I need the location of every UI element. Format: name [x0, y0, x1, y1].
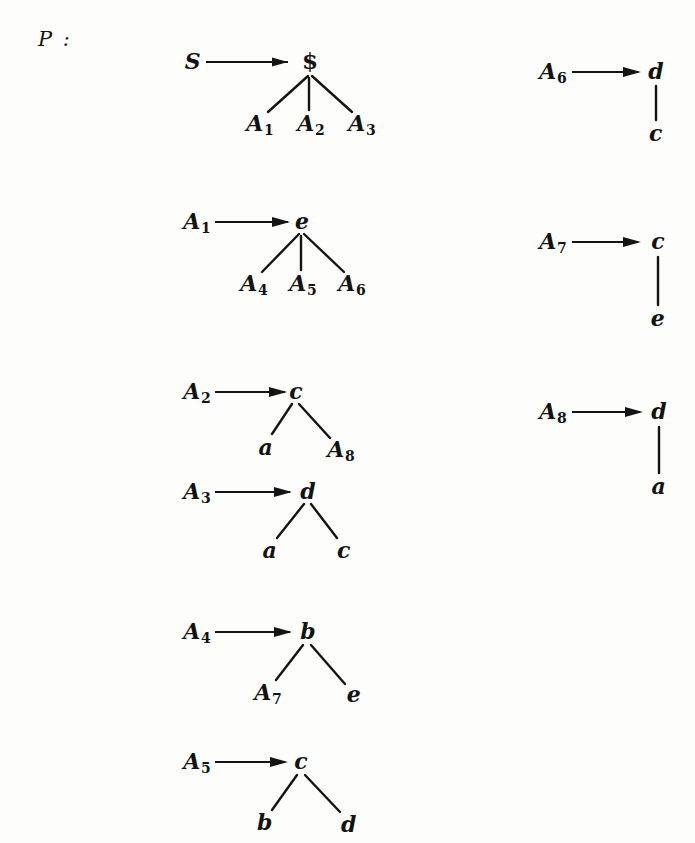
rule-child-node: c — [649, 120, 663, 148]
rule-child-node: A4 — [240, 270, 267, 298]
tree-edge — [304, 234, 344, 272]
rule-root-node: b — [300, 618, 315, 644]
tree-edge — [262, 234, 299, 272]
tree-edge — [305, 775, 340, 812]
lhs-letter: S — [185, 48, 201, 74]
child-letter: a — [652, 473, 666, 499]
arrow-head — [623, 237, 641, 247]
rule-child-node: d — [341, 811, 357, 839]
child-letter: e — [651, 305, 665, 331]
lhs-letter: A — [183, 748, 200, 774]
child-letter: A — [254, 679, 271, 705]
production-set-label: P : — [38, 27, 72, 51]
lhs-subscript: 2 — [201, 390, 211, 406]
rule-child-node: A5 — [289, 270, 316, 298]
child-letter: A — [297, 110, 314, 136]
child-subscript: 1 — [264, 122, 274, 138]
child-subscript: 8 — [345, 448, 355, 464]
rule-child-node: e — [347, 681, 362, 709]
lhs-subscript: 7 — [557, 240, 567, 256]
rule-child-node: A8 — [327, 436, 354, 464]
rule-lhs-symbol: A7 — [539, 228, 566, 256]
rule-child-node: A3 — [348, 110, 375, 138]
child-letter: c — [337, 537, 350, 563]
lhs-subscript: 3 — [201, 490, 211, 506]
child-subscript: 4 — [258, 282, 268, 298]
tree-edge — [312, 76, 352, 112]
lhs-subscript: 1 — [201, 220, 211, 236]
lhs-subscript: 5 — [201, 760, 211, 776]
tree-edge — [299, 404, 330, 438]
lhs-letter: A — [183, 618, 200, 644]
rule-root-node: d — [648, 58, 663, 84]
rule-lhs-symbol: A2 — [183, 378, 210, 406]
rule-lhs-symbol: S — [185, 48, 201, 76]
arrow-head — [272, 58, 288, 67]
lhs-letter: A — [539, 228, 556, 254]
child-letter: A — [240, 270, 257, 296]
rule-child-node: A7 — [254, 679, 281, 707]
arrow-head — [623, 67, 641, 77]
rule-root-node: d — [300, 478, 315, 504]
child-subscript: 3 — [366, 122, 376, 138]
tree-edge — [311, 504, 337, 538]
tree-edge — [311, 645, 345, 684]
rule-child-node: a — [263, 537, 278, 565]
child-letter: a — [259, 434, 273, 460]
rule-lhs-symbol: A8 — [539, 398, 566, 426]
child-letter: e — [347, 681, 361, 707]
lhs-subscript: 4 — [201, 630, 211, 646]
rule-root-node: d — [651, 398, 666, 424]
child-letter: A — [246, 110, 263, 136]
child-letter: a — [263, 537, 277, 563]
rule-child-node: b — [257, 809, 273, 837]
lhs-subscript: 8 — [557, 410, 567, 426]
rule-child-node: a — [652, 473, 667, 501]
rule-root-node: c — [294, 748, 307, 774]
lhs-letter: A — [539, 58, 556, 84]
arrow-head — [269, 387, 287, 397]
arrow-head — [274, 487, 292, 497]
tree-edge — [272, 404, 292, 434]
rule-lhs-symbol: A3 — [183, 478, 210, 506]
arrow-head — [272, 217, 290, 227]
rule-root-node: c — [651, 228, 664, 254]
rule-lhs-symbol: A5 — [183, 748, 210, 776]
rule-child-node: A1 — [246, 110, 273, 138]
rule-child-node: A6 — [338, 270, 365, 298]
arrow-head — [274, 627, 292, 637]
lhs-letter: A — [183, 378, 200, 404]
child-subscript: 2 — [315, 122, 325, 138]
tree-edge — [277, 504, 304, 538]
child-letter: A — [338, 270, 355, 296]
rule-root-node: $ — [302, 47, 318, 74]
rule-lhs-symbol: A1 — [183, 208, 210, 236]
rule-child-node: A2 — [297, 110, 324, 138]
lhs-letter: A — [183, 478, 200, 504]
tree-edge — [268, 76, 308, 112]
rule-child-node: a — [259, 434, 274, 462]
child-subscript: 5 — [307, 282, 317, 298]
rule-lhs-symbol: A6 — [539, 58, 566, 86]
child-letter: A — [289, 270, 306, 296]
lhs-letter: A — [539, 398, 556, 424]
rule-child-node: e — [651, 305, 666, 333]
child-letter: d — [341, 811, 356, 837]
child-letter: A — [327, 436, 344, 462]
child-letter: b — [257, 809, 272, 835]
lhs-letter: A — [183, 208, 200, 234]
rule-lhs-symbol: A4 — [183, 618, 210, 646]
child-letter: A — [348, 110, 365, 136]
arrow-head — [625, 407, 643, 417]
child-letter: c — [649, 120, 662, 146]
arrow-head — [270, 757, 288, 767]
tree-edge — [276, 645, 303, 680]
figure-canvas: P : S $ A1 A2 A3 — [0, 0, 695, 843]
lhs-subscript: 6 — [557, 70, 567, 86]
child-subscript: 7 — [272, 691, 282, 707]
rule-root-node: e — [295, 208, 309, 234]
rule-child-node: c — [337, 537, 351, 565]
tree-edge — [272, 775, 297, 810]
child-subscript: 6 — [356, 282, 366, 298]
rule-root-node: c — [289, 378, 302, 404]
